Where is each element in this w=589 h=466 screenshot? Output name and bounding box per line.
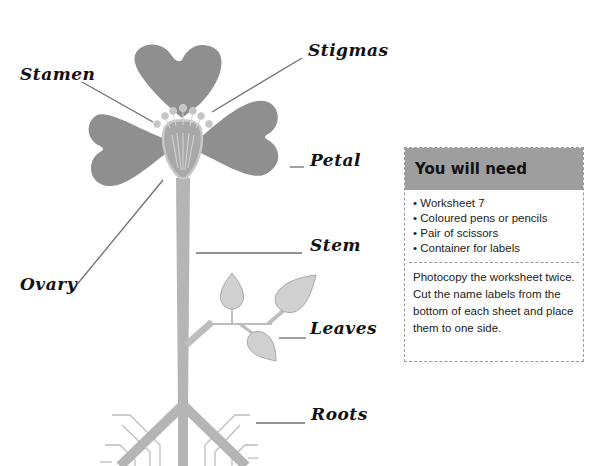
- label-stamen: Stamen: [20, 64, 95, 84]
- list-item: Pair of scissors: [413, 226, 575, 241]
- ovary-shape: [163, 120, 202, 178]
- stigma-dots: [154, 105, 213, 129]
- you-will-need-panel: You will need Worksheet 7 Coloured pens …: [404, 147, 584, 362]
- label-stem: Stem: [310, 235, 361, 255]
- list-item: Container for labels: [413, 241, 575, 256]
- label-roots: Roots: [311, 404, 368, 424]
- panel-title: You will need: [405, 148, 583, 190]
- label-leaves: Leaves: [310, 318, 377, 338]
- panel-instructions: Photocopy the worksheet twice. Cut the n…: [405, 263, 583, 343]
- label-ovary: Ovary: [20, 274, 77, 294]
- leaves-shape: [220, 273, 316, 361]
- materials-list: Worksheet 7 Coloured pens or pencils Pai…: [405, 190, 583, 262]
- stem-shape: [176, 178, 190, 410]
- label-petal: Petal: [310, 150, 361, 170]
- list-item: Coloured pens or pencils: [413, 211, 575, 226]
- label-stigmas: Stigmas: [308, 40, 389, 60]
- list-item: Worksheet 7: [413, 196, 575, 211]
